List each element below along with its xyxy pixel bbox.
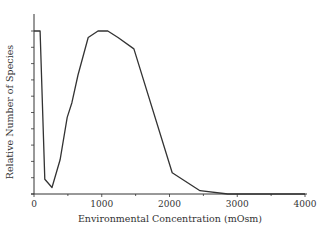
x-tick-label: 1000	[90, 199, 113, 209]
x-tick-label: 2000	[158, 199, 181, 209]
x-tick-label: 4000	[294, 199, 317, 209]
x-axis-label: Environmental Concentration (mOsm)	[78, 213, 262, 224]
line-chart: 01000200030004000 Environmental Concentr…	[0, 0, 330, 236]
species-curve	[34, 31, 305, 194]
x-tick-label: 0	[31, 199, 37, 209]
x-tick-label: 3000	[226, 199, 249, 209]
x-axis-ticks: 01000200030004000	[31, 194, 317, 209]
axes	[31, 14, 307, 194]
y-axis-label: Relative Number of Species	[4, 45, 15, 179]
